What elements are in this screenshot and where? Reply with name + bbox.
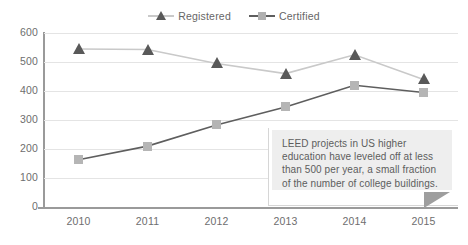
y-axis-tick-label: 600 <box>4 26 38 38</box>
legend-item-registered[interactable]: Registered <box>148 10 231 22</box>
data-point-certified-2012[interactable] <box>212 120 221 129</box>
y-axis-tick-labels: 6005004003002001000 <box>0 0 38 245</box>
x-axis-tick-label: 2010 <box>49 215 109 227</box>
data-point-certified-2014[interactable] <box>350 81 359 90</box>
x-axis-tick-label: 2012 <box>187 215 247 227</box>
y-axis-tick-label: 300 <box>4 113 38 125</box>
data-point-registered-2015[interactable] <box>418 73 430 84</box>
data-point-registered-2013[interactable] <box>280 68 292 79</box>
data-point-certified-2010[interactable] <box>74 155 83 164</box>
data-point-certified-2013[interactable] <box>281 102 290 111</box>
annotation-callout: LEED projects in US higher education hav… <box>272 130 452 190</box>
data-point-registered-2010[interactable] <box>73 43 85 54</box>
leed-projects-line-chart: Registered Certified 6005004003002001000… <box>0 0 468 245</box>
x-axis-tick-label: 2014 <box>325 215 385 227</box>
y-axis-tick-label: 400 <box>4 84 38 96</box>
data-point-certified-2011[interactable] <box>143 142 152 151</box>
x-axis-tick-label: 2015 <box>394 215 454 227</box>
y-axis-tick-label: 0 <box>4 200 38 212</box>
annotation-text: LEED projects in US higher education hav… <box>282 137 443 190</box>
data-point-registered-2011[interactable] <box>142 44 154 55</box>
callout-pointer-icon <box>424 192 450 208</box>
legend-item-certified[interactable]: Certified <box>249 10 320 22</box>
series-line-registered <box>79 49 424 79</box>
square-marker-icon <box>249 10 275 22</box>
chart-legend: Registered Certified <box>0 6 468 26</box>
legend-label-certified: Certified <box>279 10 320 22</box>
triangle-marker-icon <box>148 10 174 22</box>
y-axis-tick-label: 100 <box>4 171 38 183</box>
x-axis-tick-label: 2011 <box>118 215 178 227</box>
y-axis-tick-label: 200 <box>4 142 38 154</box>
legend-label-registered: Registered <box>178 10 231 22</box>
y-axis-tick-label: 500 <box>4 55 38 67</box>
x-axis-tick-label: 2013 <box>256 215 316 227</box>
data-point-registered-2014[interactable] <box>349 49 361 60</box>
x-axis-line <box>38 207 458 209</box>
data-point-registered-2012[interactable] <box>211 57 223 68</box>
data-point-certified-2015[interactable] <box>419 88 428 97</box>
